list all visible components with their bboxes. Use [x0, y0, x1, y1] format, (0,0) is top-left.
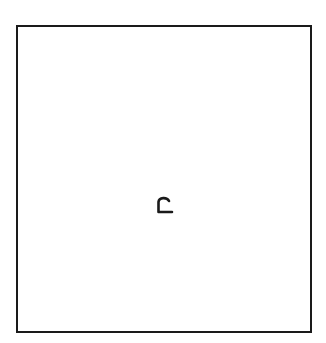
- handwritten-c-icon: [150, 190, 180, 220]
- square-label: c: [150, 190, 180, 220]
- square-outline: [16, 25, 312, 333]
